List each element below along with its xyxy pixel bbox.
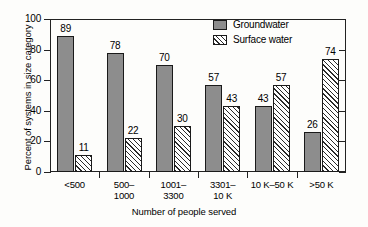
- bar-value-label: 78: [103, 41, 127, 51]
- x-tick: [247, 172, 248, 178]
- bar-groundwater: [255, 106, 272, 172]
- bar-value-label: 43: [220, 94, 244, 104]
- bar-value-label: 57: [202, 73, 226, 83]
- legend: Groundwater Surface water: [213, 17, 292, 47]
- y-tick-label: 60: [30, 75, 41, 85]
- legend-item-surface-water: Surface water: [213, 32, 292, 47]
- hatched-swatch-icon: [213, 35, 227, 45]
- bar-surface-water: [174, 126, 191, 172]
- x-tick: [198, 172, 199, 178]
- y-tick-right: [339, 80, 346, 81]
- y-tick-label: 20: [30, 136, 41, 146]
- bar-value-label: 43: [251, 94, 275, 104]
- bar-value-label: 57: [269, 73, 293, 83]
- bar-surface-water: [223, 106, 240, 172]
- bar-surface-water: [273, 85, 290, 172]
- solid-gray-swatch-icon: [213, 20, 227, 30]
- bar-value-label: 74: [318, 47, 342, 57]
- y-tick-right: [339, 141, 346, 142]
- y-tick: [44, 141, 51, 142]
- y-tick-label: 80: [30, 45, 41, 55]
- x-axis-title: Number of people served: [0, 206, 368, 217]
- y-tick: [44, 80, 51, 81]
- bar-surface-water: [322, 59, 339, 172]
- bar-surface-water: [75, 155, 92, 172]
- bar-chart: Percent of systems in size category 0204…: [0, 0, 368, 227]
- y-tick: [44, 50, 51, 51]
- y-tick: [44, 111, 51, 112]
- y-tick-right: [339, 172, 346, 173]
- legend-label-surface-water: Surface water: [233, 34, 292, 45]
- x-tick: [297, 172, 298, 178]
- x-category-label: >50 K: [289, 180, 353, 191]
- bar-value-label: 30: [170, 114, 194, 124]
- x-tick: [99, 172, 100, 178]
- bar-value-label: 70: [152, 53, 176, 63]
- bar-groundwater: [304, 132, 321, 172]
- y-tick: [44, 19, 51, 20]
- bar-value-label: 22: [121, 126, 145, 136]
- bar-value-label: 26: [300, 120, 324, 130]
- x-tick: [149, 172, 150, 178]
- y-tick-label: 0: [36, 167, 41, 177]
- legend-item-groundwater: Groundwater: [213, 17, 292, 32]
- bar-value-label: 11: [72, 143, 96, 153]
- y-tick-right: [339, 19, 346, 20]
- bar-surface-water: [125, 138, 142, 172]
- y-tick: [44, 172, 51, 173]
- legend-label-groundwater: Groundwater: [233, 19, 289, 30]
- y-tick-label: 40: [30, 106, 41, 116]
- bar-groundwater: [107, 53, 124, 172]
- y-tick-right: [339, 111, 346, 112]
- y-tick-label: 100: [25, 14, 41, 24]
- bar-value-label: 89: [54, 24, 78, 34]
- y-axis-title: Percent of systems in size category: [22, 18, 33, 178]
